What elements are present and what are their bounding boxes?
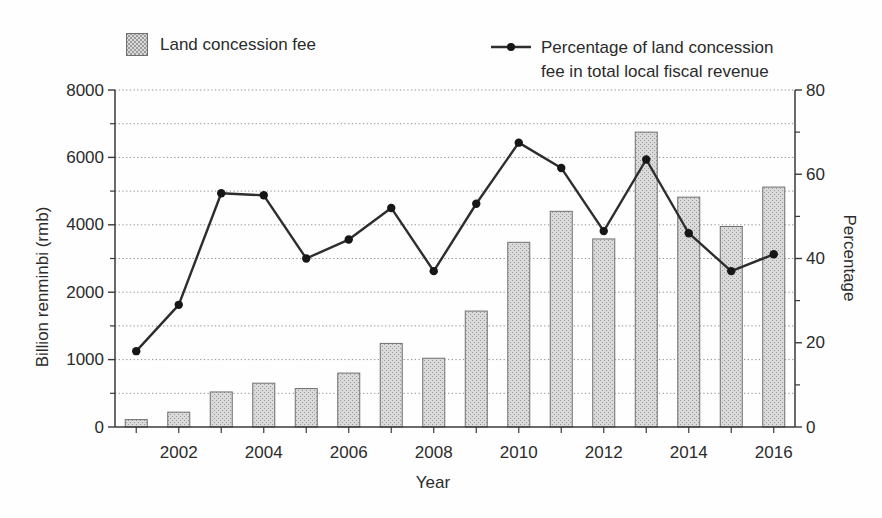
marker-2013 <box>642 155 650 163</box>
tick-label: 2012 <box>585 443 623 462</box>
x-axis-title: Year <box>416 473 450 493</box>
tick-label: 2004 <box>245 443 283 462</box>
tick-label: 60 <box>806 165 825 184</box>
tick-label: 40 <box>806 249 825 268</box>
bar-2003 <box>210 392 232 427</box>
left-axis-title: Billion renminbi (rmb) <box>33 207 53 368</box>
marker-2015 <box>727 267 735 275</box>
tick-label: 2006 <box>330 443 368 462</box>
marker-2010 <box>515 138 523 146</box>
bar-2015 <box>720 226 742 427</box>
bar-legend-label: Land concession fee <box>160 33 316 56</box>
right-axis-title: Percentage <box>839 215 859 302</box>
marker-2007 <box>387 204 395 212</box>
marker-2003 <box>217 189 225 197</box>
tick-label: 0 <box>806 418 815 437</box>
bar-2008 <box>423 358 445 427</box>
tick-label: 1000 <box>66 350 104 369</box>
bar-2013 <box>635 132 657 427</box>
bar-2006 <box>338 373 360 427</box>
marker-2011 <box>557 164 565 172</box>
bar-2011 <box>550 211 572 427</box>
tick-label: 2008 <box>415 443 453 462</box>
bar-2002 <box>168 412 190 427</box>
bar-2016 <box>763 187 785 427</box>
tick-label: 2000 <box>66 283 104 302</box>
bar-2010 <box>508 242 530 427</box>
marker-2004 <box>260 191 268 199</box>
line-legend-label: Percentage of land concession fee in tot… <box>541 36 774 84</box>
marker-2009 <box>472 200 480 208</box>
tick-label: 2002 <box>160 443 198 462</box>
tick-label: 6000 <box>66 148 104 167</box>
line-legend-label-line2: fee in total local fiscal revenue <box>541 60 774 84</box>
bar-2007 <box>380 343 402 427</box>
legend-item-bar: Land concession fee <box>126 33 316 56</box>
bar-2004 <box>253 383 275 427</box>
line-marker-icon <box>490 40 532 58</box>
tick-label: 2010 <box>500 443 538 462</box>
marker-2002 <box>175 301 183 309</box>
marker-2006 <box>345 235 353 243</box>
tick-label: 2014 <box>670 443 708 462</box>
tick-label: 20 <box>806 333 825 352</box>
land-concession-fee-chart: 8000600040002000100008060402002002200420… <box>0 0 882 518</box>
legend-item-line: Percentage of land concession fee in tot… <box>490 36 774 84</box>
marker-2001 <box>132 347 140 355</box>
marker-2012 <box>600 227 608 235</box>
marker-2016 <box>770 250 778 258</box>
tick-label: 4000 <box>66 215 104 234</box>
bar-2009 <box>465 311 487 427</box>
marker-2014 <box>685 229 693 237</box>
marker-2005 <box>302 254 310 262</box>
line-legend-label-line1: Percentage of land concession <box>541 36 774 60</box>
bar-2001 <box>125 420 147 427</box>
bar-2005 <box>295 389 317 427</box>
tick-label: 8000 <box>66 81 104 100</box>
tick-label: 2016 <box>755 443 793 462</box>
tick-label: 0 <box>95 418 104 437</box>
tick-label: 80 <box>806 81 825 100</box>
bar-2012 <box>593 239 615 427</box>
bar-swatch-icon <box>126 33 148 56</box>
marker-2008 <box>430 267 438 275</box>
